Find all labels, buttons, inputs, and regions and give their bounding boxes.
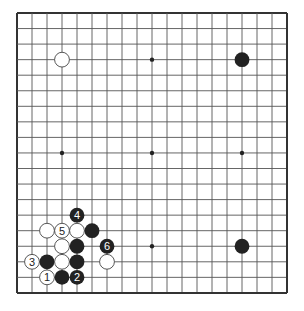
black-stone: [235, 52, 250, 67]
star-point: [60, 151, 64, 155]
white-stone: [70, 223, 85, 238]
go-board: 456312: [0, 0, 304, 311]
black-stone: [55, 270, 70, 285]
black-stone: [85, 223, 100, 238]
white-stone: [100, 254, 115, 269]
move-number-label: 1: [44, 271, 50, 283]
black-stone: [235, 239, 250, 254]
black-stone: 4: [70, 208, 85, 223]
black-stone: [40, 254, 55, 269]
black-stone: [70, 239, 85, 254]
star-point: [240, 151, 244, 155]
move-number-label: 3: [29, 256, 35, 268]
white-stone: 1: [40, 270, 55, 285]
star-point: [150, 57, 154, 61]
black-stone: 2: [70, 270, 85, 285]
white-stone: [55, 239, 70, 254]
move-number-label: 6: [104, 240, 110, 252]
move-number-label: 5: [59, 225, 65, 237]
star-point: [150, 151, 154, 155]
black-stone: [70, 254, 85, 269]
white-stone: [55, 254, 70, 269]
white-stone: 5: [55, 223, 70, 238]
move-number-label: 2: [74, 271, 80, 283]
white-stone: [55, 52, 70, 67]
black-stone: 6: [100, 239, 115, 254]
white-stone: [40, 223, 55, 238]
star-point: [150, 244, 154, 248]
move-number-label: 4: [74, 209, 80, 221]
white-stone: 3: [25, 254, 40, 269]
